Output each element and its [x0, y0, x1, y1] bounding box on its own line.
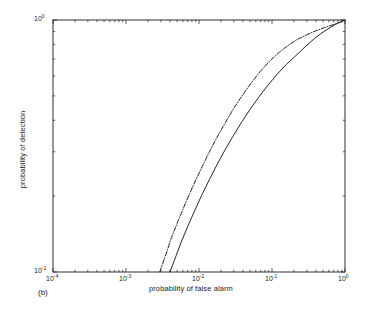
figure-background — [0, 0, 370, 318]
x-tick-label-1: 10-3 — [119, 275, 131, 282]
x-tick-label-3: 10-1 — [265, 275, 277, 282]
x-axis-label: probability of false alarm — [149, 284, 233, 293]
roc-plot-figure — [0, 0, 370, 318]
x-tick-label-0: 10-4 — [46, 275, 58, 282]
y-tick-label-0: 10-1 — [34, 267, 46, 274]
y-axis-label: probability of detection — [18, 90, 27, 210]
y-tick-label-1: 100 — [34, 15, 45, 22]
x-tick-label-4: 100 — [338, 275, 349, 282]
x-tick-label-2: 10-2 — [192, 275, 204, 282]
figure-caption: (b) — [38, 288, 48, 297]
